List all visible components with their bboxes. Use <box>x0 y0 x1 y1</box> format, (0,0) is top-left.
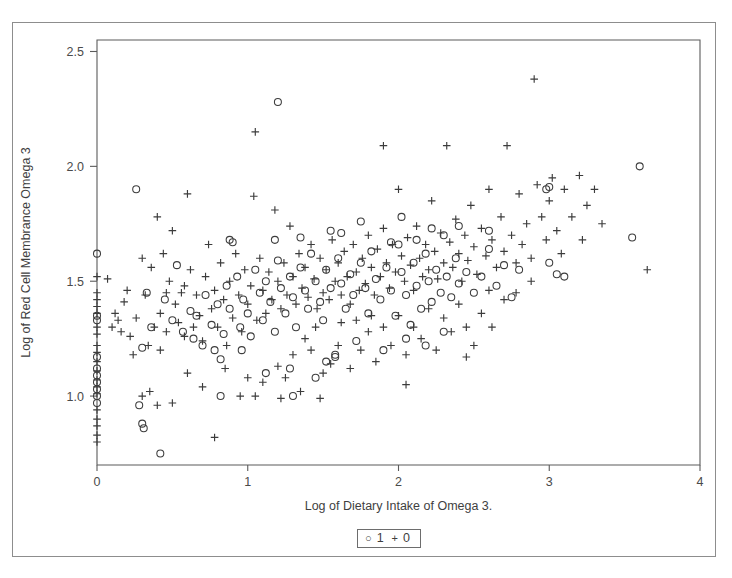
svg-text:2.5: 2.5 <box>67 45 84 59</box>
svg-text:1.5: 1.5 <box>67 275 84 289</box>
svg-text:4: 4 <box>697 475 704 489</box>
svg-text:1: 1 <box>244 475 251 489</box>
legend-label-group-0: 0 <box>403 532 410 545</box>
svg-text:2.0: 2.0 <box>67 160 84 174</box>
data-points <box>93 75 651 457</box>
axis-ticks: 012341.01.52.02.5 <box>67 45 704 489</box>
svg-text:2: 2 <box>395 475 402 489</box>
legend-circle-icon: ○ <box>365 533 372 544</box>
svg-text:3: 3 <box>546 475 553 489</box>
legend: ○ 1 + 0 <box>357 529 421 548</box>
legend-plus-icon: + <box>392 533 398 544</box>
svg-text:0: 0 <box>94 475 101 489</box>
plot-axes-frame <box>97 40 700 465</box>
y-axis-label: Log of Red Cell Membrance Omega 3 <box>19 147 33 358</box>
x-axis-label: Log of Dietary Intake of Omega 3. <box>305 499 493 513</box>
legend-label-group-1: 1 <box>377 532 384 545</box>
scatter-plot-figure: 012341.01.52.02.5 Log of Dietary Intake … <box>0 0 732 578</box>
plot-canvas: 012341.01.52.02.5 Log of Dietary Intake … <box>0 0 732 578</box>
svg-text:1.0: 1.0 <box>67 390 84 404</box>
